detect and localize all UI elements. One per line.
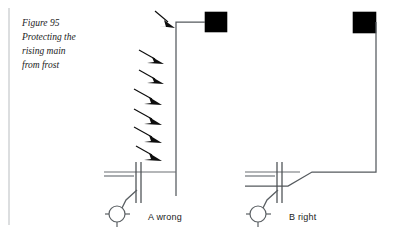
panel-a-wall-union-fitting: [136, 162, 141, 203]
figure-container: Figure 95 Protecting the rising main fro…: [0, 0, 396, 233]
panel-b-rising-main-pipe: [245, 22, 376, 186]
frost-arrow-4: [134, 89, 162, 105]
panel-b-storage-cistern: [353, 12, 376, 33]
frost-arrow-3: [139, 70, 164, 84]
panel-a-stopcock-valve: [105, 206, 130, 227]
frost-arrow-1: [155, 11, 175, 28]
panel-a-stopcock-lever: [122, 190, 137, 208]
panel-b-wall-union-fitting: [277, 162, 282, 203]
frost-arrow-7: [136, 146, 162, 161]
frost-arrow-6: [134, 127, 162, 143]
panel-a-label: A wrong: [148, 212, 182, 222]
panel-b-stopcock-lever: [263, 190, 278, 208]
panel-b-stopcock-valve: [246, 206, 271, 227]
panel-b-label: B right: [289, 212, 317, 222]
panel-a-storage-cistern: [205, 12, 227, 32]
panel-a-frost-arrows: [134, 11, 175, 161]
frost-arrow-5: [134, 109, 162, 125]
panel-a-wrong: A wrong: [104, 11, 227, 227]
figure-caption: Figure 95 Protecting the rising main fro…: [21, 18, 76, 70]
panel-a-rising-main-pipe: [176, 22, 205, 196]
caption-line-1: Figure 95: [21, 18, 60, 28]
figure-95-diagram: Figure 95 Protecting the rising main fro…: [0, 0, 396, 233]
caption-line-4: from frost: [22, 60, 59, 70]
caption-line-3: rising main: [22, 46, 66, 56]
panel-b-right: B right: [245, 12, 376, 227]
caption-line-2: Protecting the: [21, 32, 76, 42]
frost-arrow-2: [139, 50, 164, 64]
